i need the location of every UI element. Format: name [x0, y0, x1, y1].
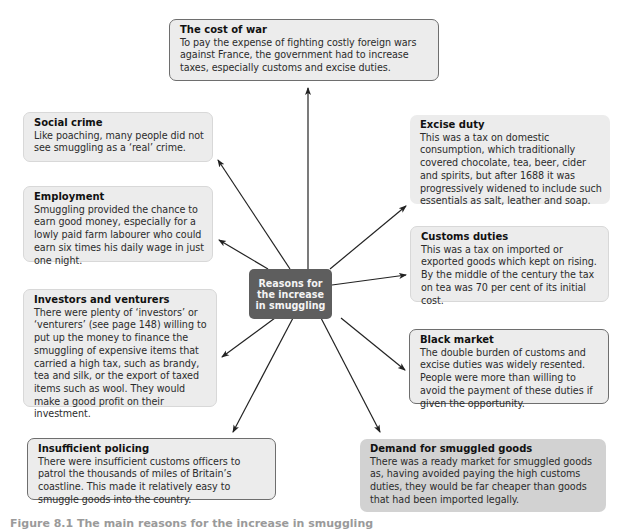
- box-title: Black market: [420, 334, 600, 347]
- box-investors: Investors and venturers There were plent…: [23, 289, 217, 407]
- arrow-employment: [219, 240, 268, 269]
- figure-caption: Figure 8.1 The main reasons for the incr…: [10, 517, 373, 530]
- box-customs-duties: Customs duties This was a tax on importe…: [410, 226, 609, 302]
- box-body: This was a tax on domestic consumption, …: [420, 132, 602, 208]
- box-body: This was a tax on imported or exported g…: [421, 244, 600, 308]
- box-body: Like poaching, many people did not see s…: [34, 130, 204, 155]
- box-social-crime: Social crime Like poaching, many people …: [23, 112, 213, 162]
- arrow-social-crime: [218, 160, 290, 269]
- central-topic-node: Reasons for the increase in smuggling: [249, 269, 332, 319]
- arrow-policing: [233, 318, 293, 432]
- box-body: The double burden of customs and excise …: [420, 347, 600, 411]
- box-title: Social crime: [34, 117, 204, 130]
- box-excise-duty: Excise duty This was a tax on domestic c…: [410, 115, 610, 204]
- box-title: Employment: [34, 191, 204, 204]
- box-body: There were plenty of ‘investors’ or ‘ven…: [34, 307, 208, 421]
- box-title: The cost of war: [180, 24, 430, 37]
- box-title: Excise duty: [420, 119, 602, 132]
- arrow-demand: [321, 318, 380, 432]
- box-title: Investors and venturers: [34, 294, 208, 307]
- arrow-investors: [222, 318, 275, 357]
- box-body: To pay the expense of fighting costly fo…: [180, 37, 430, 75]
- arrow-customs: [332, 275, 406, 285]
- box-body: Smuggling provided the chance to earn go…: [34, 204, 204, 268]
- box-employment: Employment Smuggling provided the chance…: [23, 186, 213, 262]
- box-demand-smuggled-goods: Demand for smuggled goods There was a re…: [360, 439, 606, 512]
- box-title: Customs duties: [421, 231, 600, 244]
- arrow-black-market: [341, 318, 405, 370]
- box-body: There were insufficient customs officers…: [38, 456, 267, 507]
- box-title: Demand for smuggled goods: [370, 443, 598, 456]
- box-cost-of-war: The cost of war To pay the expense of fi…: [169, 19, 439, 81]
- arrow-excise: [330, 206, 406, 269]
- box-body: There was a ready market for smuggled go…: [370, 456, 598, 507]
- box-title: Insufficient policing: [38, 443, 267, 456]
- box-black-market: Black market The double burden of custom…: [409, 329, 609, 404]
- box-insufficient-policing: Insufficient policing There were insuffi…: [27, 438, 276, 500]
